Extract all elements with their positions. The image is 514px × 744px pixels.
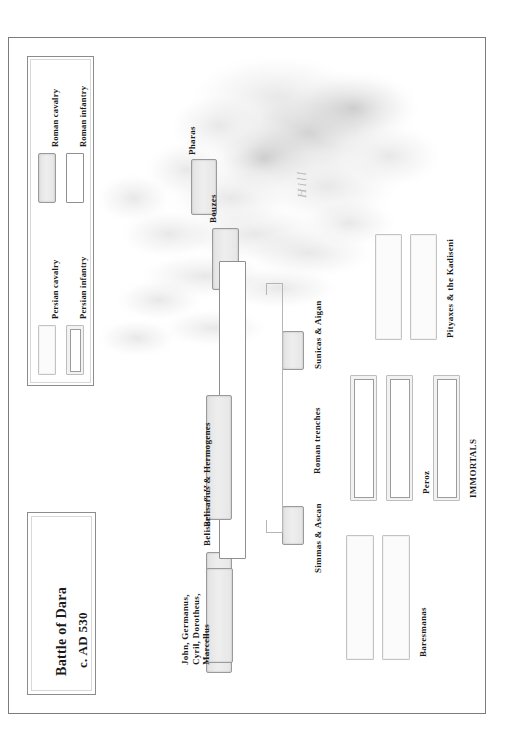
unit-immortals xyxy=(433,375,460,501)
legend-label-roman-cavalry: Roman cavalry xyxy=(50,89,60,147)
roman-trenches-label: Roman trenches xyxy=(312,407,322,474)
trench-hook-top-tip xyxy=(266,283,267,295)
trench-hook-bottom-tip xyxy=(266,520,267,533)
figure-frame: Persian cavalry Persian infantry Roman c… xyxy=(8,37,486,714)
title-box: Battle of Dara c. AD 530 xyxy=(27,512,96,695)
roman-trenches-line xyxy=(266,283,288,533)
unit-label-baresmanas: Baresmanas xyxy=(418,607,428,657)
unit-baresmanas-a xyxy=(346,535,374,660)
unit-pityaxes-kadiseni-a xyxy=(375,234,402,340)
page-title: Battle of Dara xyxy=(54,587,70,676)
trench-hook-bottom xyxy=(266,532,283,533)
page-subtitle: c. AD 530 xyxy=(75,612,91,668)
legend-label-persian-cavalry: Persian cavalry xyxy=(50,260,60,319)
unit-label-simmas-ascan: Simmas & Ascan xyxy=(313,503,323,573)
unit-label-immortals: IMMORTALS xyxy=(468,439,478,498)
trench-stem xyxy=(282,283,283,533)
legend-box: Persian cavalry Persian infantry Roman c… xyxy=(27,56,94,386)
legend-label-persian-infantry: Persian infantry xyxy=(78,257,88,319)
legend-swatch-roman-infantry xyxy=(66,153,84,203)
legend-swatch-persian-infantry xyxy=(66,325,84,375)
unit-label-pharas: Pharas xyxy=(187,126,197,155)
unit-inner xyxy=(390,379,410,498)
unit-label-peroz: Peroz xyxy=(421,471,431,494)
unit-label-bouzes: Bouzes xyxy=(208,194,218,223)
battle-map-figure: Persian cavalry Persian infantry Roman c… xyxy=(0,0,514,744)
unit-label-john-group: John, Germanus, Cyril, Dorotheus, Marcel… xyxy=(180,593,212,665)
unit-peroz-b xyxy=(386,375,413,501)
legend-swatch-roman-cavalry xyxy=(38,153,56,203)
legend-swatch-inner xyxy=(70,329,81,372)
unit-label-pityaxes-kadiseni: Pityaxes & the Kadiseni xyxy=(445,239,455,338)
unit-baresmanas-b xyxy=(382,535,410,660)
unit-peroz-a xyxy=(350,375,377,501)
unit-pityaxes-kadiseni-b xyxy=(410,234,437,340)
legend-label-roman-infantry: Roman infantry xyxy=(78,86,88,147)
unit-label-sunicas-aigan: Sunicas & Aigan xyxy=(313,300,323,369)
unit-label-belisarius: Belisarius & Hermogenes xyxy=(202,422,212,527)
unit-inner xyxy=(437,379,457,498)
hill-label: Hill xyxy=(294,170,310,198)
trench-hook-top xyxy=(266,283,283,284)
legend-swatch-persian-cavalry xyxy=(38,325,56,375)
unit-inner xyxy=(354,379,374,498)
